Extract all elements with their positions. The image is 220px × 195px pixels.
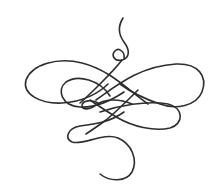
- flourish-illustration: [0, 0, 220, 195]
- flourish-ornament-icon: [0, 0, 220, 195]
- flourish-strokes: [25, 18, 203, 180]
